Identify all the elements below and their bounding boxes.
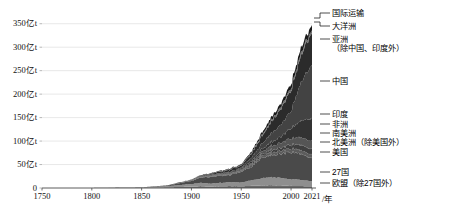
legend-item: 27国 [332,168,349,177]
legend-item-label: 非洲 [332,120,348,129]
stacked-area-chart: 350亿t300亿t250亿t200亿t150亿t100亿t50亿t0 1750… [0,0,449,221]
legend-item: 北美洲（除美国外） [332,138,404,147]
legend-item: 欧盟（除27国外） [332,179,397,188]
y-axis-tick-label: 100亿t [13,137,37,146]
x-axis-tick-label: 2000 [280,192,302,201]
y-axis-tick-label: 150亿t [13,113,37,122]
legend-item: 中国 [332,77,348,86]
y-axis-tick-label: 300亿t [13,43,37,52]
legend-item-label: 北美洲（除美国外） [332,138,404,147]
legend-item: 印度 [332,110,348,119]
x-axis-tick-label: 1750 [31,192,53,201]
legend-item: 非洲 [332,120,348,129]
legend-item: 国际运输 [332,9,364,18]
x-axis-tick-label: 1950 [230,192,252,201]
legend-item: 亚洲（除中国、印度外） [332,35,404,53]
legend-item: 大洋洲 [332,22,356,31]
legend-item-label: 南美洲 [332,129,356,138]
legend-item: 南美洲 [332,129,356,138]
legend-item-label: 大洋洲 [332,22,356,31]
area-series-group [42,25,312,188]
legend-item: 美国 [332,148,348,157]
x-axis-tick-label: 1900 [180,192,202,201]
legend-item-label: 27国 [332,168,349,177]
x-axis-tick-label: 1850 [131,192,153,201]
legend-bracket [314,13,320,18]
y-axis-tick-label: 200亿t [13,90,37,99]
legend-bracket [314,22,320,26]
x-axis-tick-label: 1800 [81,192,103,201]
legend-item-label: 欧盟（除27国外） [332,179,397,188]
legend-item-label: 中国 [332,77,348,86]
y-axis-tick-label: 50亿t [17,160,37,169]
legend-leader-lines [314,13,330,183]
x-axis-unit-label: /年 [322,192,333,204]
legend-item-label: 印度 [332,110,348,119]
y-axis-tick-label: 350亿t [13,19,37,28]
y-axis-tick-label: 250亿t [13,66,37,75]
legend-item-label: 美国 [332,148,348,157]
legend-item-label: 国际运输 [332,9,364,18]
x-axis-tick-label: 2021 [301,192,323,201]
legend-item-label: 亚洲 [332,35,348,44]
legend-item-sublabel: （除中国、印度外） [332,44,404,53]
